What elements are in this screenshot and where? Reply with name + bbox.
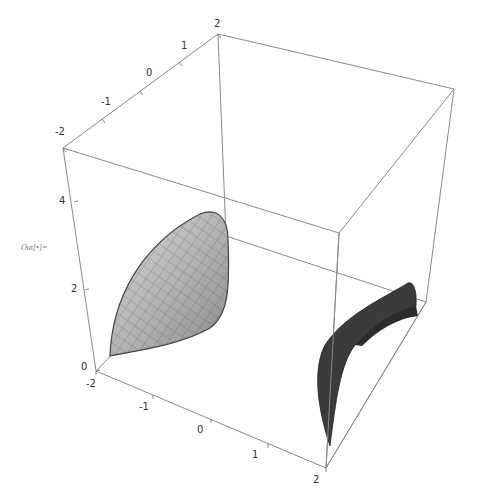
bottom-axis-ticks (96, 371, 326, 472)
svg-text:-2: -2 (86, 378, 96, 389)
bottom-axis-labels: -2 -1 0 1 2 (86, 378, 319, 485)
svg-text:1: 1 (181, 40, 187, 51)
svg-text:2: 2 (71, 283, 77, 294)
bounding-box (63, 34, 454, 468)
svg-text:0: 0 (81, 361, 87, 372)
left-surface (100, 200, 240, 370)
plot-3d[interactable]: -2 -1 0 1 2 0 2 4 -2 -1 0 1 2 (0, 0, 477, 502)
right-surface (318, 283, 418, 446)
svg-text:4: 4 (59, 195, 65, 206)
top-axis-ticks (63, 34, 221, 152)
svg-text:0: 0 (197, 424, 203, 435)
svg-text:2: 2 (214, 18, 220, 29)
svg-text:0: 0 (146, 67, 152, 78)
svg-text:-1: -1 (139, 401, 149, 412)
svg-text:-1: -1 (101, 96, 111, 107)
vertical-axis-ticks (74, 201, 100, 371)
svg-text:-2: -2 (55, 126, 65, 137)
svg-text:2: 2 (313, 474, 319, 485)
top-axis-labels: -2 -1 0 1 2 (55, 18, 220, 137)
svg-text:1: 1 (252, 449, 258, 460)
